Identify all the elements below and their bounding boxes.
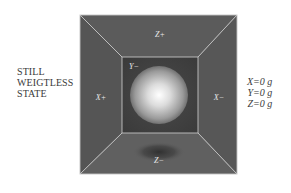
readout-x: X=0 g (247, 76, 272, 87)
label-z-minus: Z− (154, 156, 164, 165)
state-caption-line: STILL (17, 66, 73, 77)
label-z-plus: Z+ (155, 30, 165, 39)
state-caption-line: WEIGTLESS (17, 77, 73, 88)
sphere (130, 66, 188, 124)
readout-y: Y=0 g (247, 87, 272, 98)
weightless-state-diagram: Z+ X+ X− Y− Z− STILL WEIGTLESS STATE X=0… (0, 0, 291, 193)
acceleration-readout: X=0 g Y=0 g Z=0 g (247, 76, 272, 109)
readout-z: Z=0 g (247, 98, 272, 109)
label-x-plus: X+ (96, 93, 106, 102)
state-caption: STILL WEIGTLESS STATE (17, 66, 73, 99)
state-caption-line: STATE (17, 88, 73, 99)
label-x-minus: X− (214, 93, 224, 102)
label-y-minus: Y− (129, 62, 139, 71)
